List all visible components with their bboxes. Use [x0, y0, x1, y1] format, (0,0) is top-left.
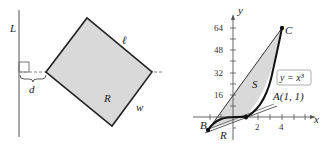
y-tick-32: 32: [214, 68, 223, 78]
label-A: A(1, 1): [272, 90, 304, 103]
point-C: [280, 26, 284, 30]
y-tick-48: 48: [214, 45, 224, 55]
x-tick-2: 2: [255, 122, 260, 132]
y-tick-64: 64: [214, 23, 224, 33]
x-tick-4: 4: [279, 122, 284, 132]
curve-label: y = x³: [279, 72, 305, 83]
label-L: L: [9, 22, 16, 34]
label-B: B: [200, 119, 207, 131]
label-region-R: R: [219, 129, 227, 141]
label-C: C: [285, 24, 293, 36]
y-tick-16: 16: [214, 90, 224, 100]
right-angle-marker: [19, 62, 29, 72]
brace-d: [20, 75, 46, 82]
label-width: w: [136, 101, 144, 113]
point-A: [244, 115, 248, 119]
left-figure: L d ℓ w R: [9, 10, 163, 137]
x-axis-label: x: [313, 113, 319, 125]
label-length: ℓ: [122, 34, 127, 46]
diagram-canvas: L d ℓ w R y x: [0, 0, 322, 150]
label-d: d: [29, 83, 35, 95]
label-region-R: R: [103, 92, 111, 104]
y-axis-arrow-icon: [231, 14, 235, 20]
right-figure: y x 16 32 48 64 2 4: [193, 4, 319, 141]
label-region-S: S: [252, 78, 258, 90]
y-axis-label: y: [237, 4, 243, 16]
